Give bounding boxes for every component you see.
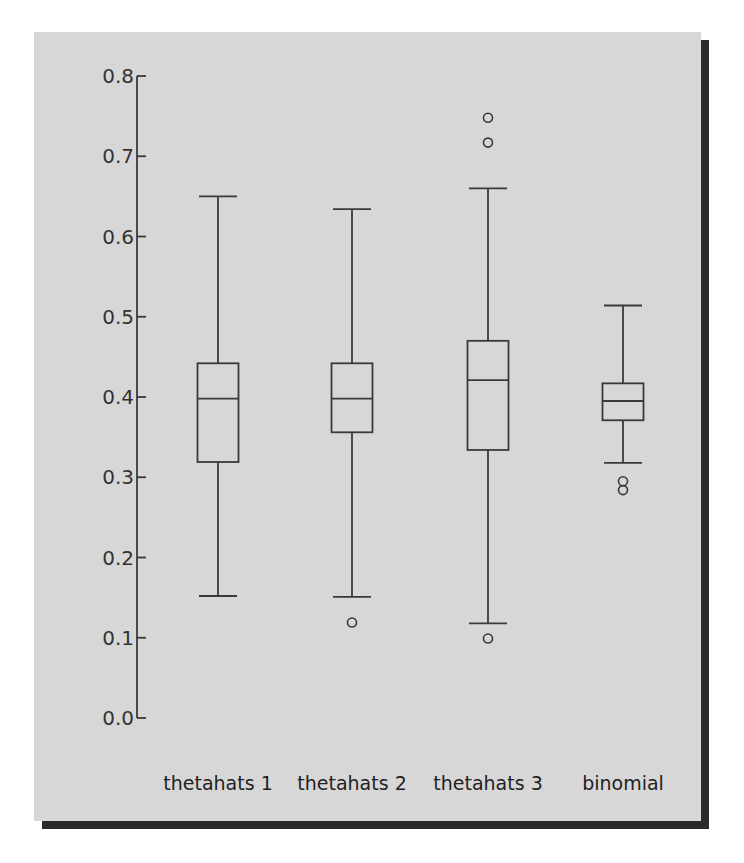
y-tick-label: 0.3: [102, 465, 134, 489]
boxplots: [198, 113, 644, 643]
outlier-point: [619, 477, 628, 486]
outlier-point: [348, 618, 357, 627]
boxplot-thetahats-2: [332, 209, 373, 627]
x-category-label: thetahats 1: [163, 772, 272, 794]
x-category-label: thetahats 3: [433, 772, 542, 794]
iqr-box: [468, 341, 509, 450]
y-tick-label: 0.1: [102, 626, 134, 650]
y-axis: 0.00.10.20.30.40.50.60.70.8: [102, 64, 146, 730]
x-category-label: thetahats 2: [297, 772, 406, 794]
x-category-label: binomial: [582, 772, 664, 794]
y-tick-label: 0.7: [102, 144, 134, 168]
outlier-point: [484, 138, 493, 147]
y-tick-label: 0.4: [102, 385, 134, 409]
boxplot-chart: 0.00.10.20.30.40.50.60.70.8 thetahats 1t…: [0, 0, 744, 863]
outlier-point: [484, 634, 493, 643]
x-axis-labels: thetahats 1thetahats 2thetahats 3binomia…: [163, 772, 664, 794]
y-tick-label: 0.0: [102, 706, 134, 730]
y-tick-label: 0.8: [102, 64, 134, 88]
iqr-box: [198, 363, 239, 462]
y-tick-label: 0.6: [102, 225, 134, 249]
boxplot-thetahats-3: [468, 113, 509, 643]
outlier-point: [484, 113, 493, 122]
y-tick-label: 0.5: [102, 305, 134, 329]
boxplot-thetahats-1: [198, 196, 239, 596]
y-tick-label: 0.2: [102, 546, 134, 570]
boxplot-binomial: [603, 306, 644, 495]
outlier-point: [619, 486, 628, 495]
